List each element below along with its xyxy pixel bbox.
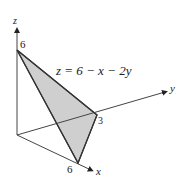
- plane-equation: z = 6 − x − 2y: [55, 63, 132, 78]
- z-axis-label: z: [12, 15, 17, 26]
- y-intercept-label: 3: [98, 115, 103, 126]
- z-intercept-label: 6: [20, 38, 26, 50]
- y-axis-label: y: [169, 82, 175, 94]
- x-axis-label: x: [95, 165, 101, 177]
- plane-diagram: z y x 6 3 6 z = 6 − x − 2y: [0, 0, 186, 180]
- x-intercept-label: 6: [67, 163, 73, 175]
